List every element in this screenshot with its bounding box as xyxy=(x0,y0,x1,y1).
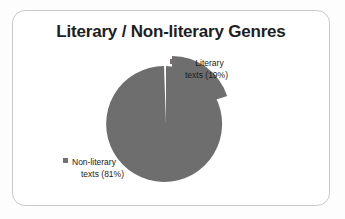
data-label-literary-line2: texts (19%) xyxy=(185,70,228,82)
chart-card: Literary / Non-literary Genres Literary … xyxy=(12,10,330,206)
data-label-literary-line1: Literary xyxy=(195,58,223,68)
data-label-non-literary: Non-literary texts (81%) xyxy=(72,157,124,180)
pie-plot-area: Literary texts (19%) Non-literary texts … xyxy=(13,11,331,207)
literary-marker-icon xyxy=(170,59,175,64)
data-label-literary: Literary texts (19%) xyxy=(191,58,228,81)
data-label-non-literary-line1: Non-literary xyxy=(72,157,116,167)
data-label-non-literary-line2: texts (81%) xyxy=(81,169,124,181)
chart-screenshot: Literary / Non-literary Genres Literary … xyxy=(0,0,345,219)
non-literary-marker-icon xyxy=(63,158,68,163)
pie-chart-svg xyxy=(13,11,331,207)
